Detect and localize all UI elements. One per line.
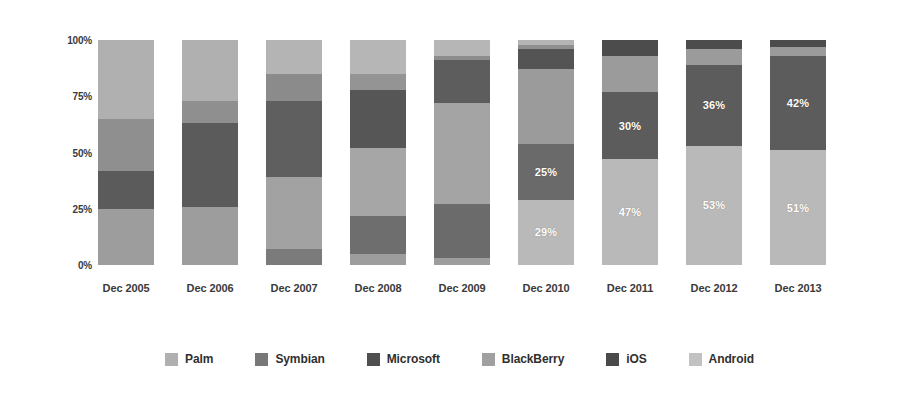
legend-item[interactable]: Android: [689, 352, 754, 366]
legend-label: Symbian: [275, 352, 324, 366]
bar-segment[interactable]: [434, 258, 490, 265]
bar-segment[interactable]: [518, 49, 574, 69]
bar-segment[interactable]: [434, 56, 490, 61]
bar-segment[interactable]: 30%: [602, 92, 658, 160]
bar-segment[interactable]: [518, 69, 574, 143]
y-axis: 0%25%50%75%100%: [40, 40, 92, 265]
x-axis-tick: Dec 2005: [88, 282, 164, 294]
bar-segment[interactable]: [98, 119, 154, 171]
bar-segment[interactable]: [182, 207, 238, 266]
legend-swatch-icon: [255, 353, 268, 366]
bar-segment[interactable]: [770, 40, 826, 47]
segment-value-label: 47%: [602, 206, 658, 218]
x-axis-tick: Dec 2009: [424, 282, 500, 294]
bar-column[interactable]: [98, 40, 154, 265]
bar-column[interactable]: [350, 40, 406, 265]
legend-swatch-icon: [606, 353, 619, 366]
bar-segment[interactable]: [98, 209, 154, 265]
bar-column[interactable]: [182, 40, 238, 265]
segment-value-label: 42%: [770, 97, 826, 109]
bar-column[interactable]: [266, 40, 322, 265]
bar-segment[interactable]: [434, 40, 490, 56]
x-axis-tick: Dec 2006: [172, 282, 248, 294]
bar-segment[interactable]: [266, 40, 322, 74]
bar-segment[interactable]: 29%: [518, 200, 574, 265]
bar-segment[interactable]: [602, 40, 658, 56]
legend-item[interactable]: BlackBerry: [482, 352, 564, 366]
bar-column[interactable]: 47%30%: [602, 40, 658, 265]
bar-segment[interactable]: 51%: [770, 150, 826, 265]
bar-segment[interactable]: [350, 40, 406, 74]
legend-label: Microsoft: [387, 352, 440, 366]
bar-segment[interactable]: 25%: [518, 144, 574, 200]
bar-segment[interactable]: [350, 216, 406, 254]
plot-area: 29%25%47%30%53%36%51%42%: [98, 40, 854, 265]
legend-swatch-icon: [165, 353, 178, 366]
legend-swatch-icon: [689, 353, 702, 366]
bar-segment[interactable]: [350, 148, 406, 216]
bar-segment[interactable]: [266, 177, 322, 249]
x-axis-tick: Dec 2010: [508, 282, 584, 294]
bar-segment[interactable]: [602, 56, 658, 92]
x-axis: Dec 2005Dec 2006Dec 2007Dec 2008Dec 2009…: [98, 282, 854, 300]
bar-column[interactable]: [434, 40, 490, 265]
x-axis-tick: Dec 2011: [592, 282, 668, 294]
bar-segment[interactable]: [266, 74, 322, 101]
x-axis-tick: Dec 2012: [676, 282, 752, 294]
segment-value-label: 51%: [770, 202, 826, 214]
legend-item[interactable]: Palm: [165, 352, 213, 366]
segment-value-label: 36%: [686, 99, 742, 111]
bar-segment[interactable]: [182, 101, 238, 124]
bar-column[interactable]: 53%36%: [686, 40, 742, 265]
x-axis-tick: Dec 2007: [256, 282, 332, 294]
legend-item[interactable]: Symbian: [255, 352, 324, 366]
bar-segment[interactable]: [182, 40, 238, 101]
bar-segment[interactable]: [350, 90, 406, 149]
bar-segment[interactable]: [98, 40, 154, 119]
segment-value-label: 29%: [518, 226, 574, 238]
legend-label: iOS: [626, 352, 646, 366]
y-axis-tick: 75%: [73, 91, 92, 102]
legend-item[interactable]: Microsoft: [367, 352, 440, 366]
y-axis-tick: 0%: [78, 260, 92, 271]
bar-segment[interactable]: [266, 249, 322, 265]
bar-segment[interactable]: [350, 74, 406, 90]
bar-segment[interactable]: [98, 171, 154, 209]
legend-item[interactable]: iOS: [606, 352, 646, 366]
x-axis-tick: Dec 2013: [760, 282, 836, 294]
bar-segment[interactable]: [686, 40, 742, 49]
bar-segment[interactable]: 53%: [686, 146, 742, 265]
bar-segment[interactable]: [518, 40, 574, 45]
legend-label: BlackBerry: [502, 352, 564, 366]
bar-segment[interactable]: [266, 101, 322, 178]
bar-segment[interactable]: [182, 123, 238, 206]
bar-segment[interactable]: [770, 47, 826, 56]
bar-segment[interactable]: [518, 45, 574, 50]
bar-column[interactable]: 51%42%: [770, 40, 826, 265]
y-axis-tick: 100%: [67, 35, 92, 46]
legend-swatch-icon: [482, 353, 495, 366]
legend-label: Palm: [185, 352, 213, 366]
bar-segment[interactable]: [434, 103, 490, 204]
bar-segment[interactable]: [686, 49, 742, 65]
segment-value-label: 25%: [518, 166, 574, 178]
segment-value-label: 30%: [602, 120, 658, 132]
bar-segment[interactable]: [434, 60, 490, 103]
x-axis-tick: Dec 2008: [340, 282, 416, 294]
chart-legend: PalmSymbianMicrosoftBlackBerryiOSAndroid: [0, 352, 919, 366]
legend-label: Android: [709, 352, 754, 366]
bar-segment[interactable]: [350, 254, 406, 265]
bar-column[interactable]: 29%25%: [518, 40, 574, 265]
stacked-bar-chart: 0%25%50%75%100% 29%25%47%30%53%36%51%42%…: [0, 0, 919, 396]
y-axis-tick: 50%: [73, 147, 92, 158]
bar-segment[interactable]: [434, 204, 490, 258]
legend-swatch-icon: [367, 353, 380, 366]
bar-segment[interactable]: 36%: [686, 65, 742, 146]
segment-value-label: 53%: [686, 199, 742, 211]
y-axis-tick: 25%: [73, 203, 92, 214]
bar-segment[interactable]: 47%: [602, 159, 658, 265]
bar-segment[interactable]: 42%: [770, 56, 826, 151]
